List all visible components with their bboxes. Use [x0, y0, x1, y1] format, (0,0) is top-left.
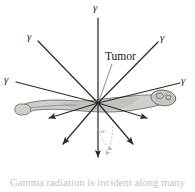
gamma-radiation-figure: γ γ γ γ γ Tumor α Gamma radiation is inc… — [0, 0, 195, 192]
gamma-ray-group — [16, 18, 180, 157]
tumor-label: Tumor — [105, 51, 136, 63]
caption-text: Gamma radiation is incident along many — [10, 177, 185, 188]
gamma-label-right: γ — [181, 75, 185, 86]
gamma-label-upper-left: γ — [27, 31, 31, 42]
gamma-label-top: γ — [93, 2, 97, 13]
angle-alpha-label: α — [101, 128, 105, 135]
diagram-canvas — [0, 0, 195, 192]
angle-arc-outer — [106, 126, 113, 155]
caption-bar: Gamma radiation is incident along many — [0, 172, 195, 190]
gamma-label-upper-right: γ — [160, 32, 164, 43]
patient-feet — [15, 104, 31, 115]
ray-from-upper-left — [38, 41, 98, 103]
gamma-label-left: γ — [4, 74, 8, 85]
